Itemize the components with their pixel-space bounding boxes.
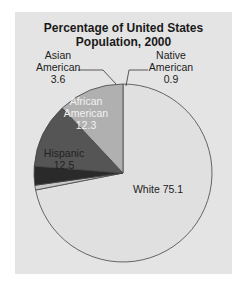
label-native-american: Native American 0.9 — [146, 49, 196, 85]
label-native-value: 0.9 — [146, 73, 196, 85]
label-native-line1: Native — [146, 49, 196, 61]
label-hispanic: Hispanic 12.5 — [41, 147, 87, 171]
label-white-text: White 75.1 — [133, 183, 183, 195]
label-african-line1: African — [63, 95, 109, 107]
label-hispanic-value: 12.5 — [41, 159, 87, 171]
label-native-line2: American — [146, 61, 196, 73]
label-african-line2: American — [63, 107, 109, 119]
label-asian-american: Asian American 3.6 — [36, 49, 80, 85]
label-african-american: African American 12.3 — [63, 95, 109, 131]
label-asian-line1: Asian — [36, 49, 80, 61]
pie-slices — [34, 84, 212, 262]
native-leader-line — [126, 70, 148, 86]
pie-chart — [0, 0, 240, 285]
asian-leader-line — [78, 70, 116, 84]
label-white: White 75.1 — [128, 183, 188, 195]
label-asian-line2: American — [36, 61, 80, 73]
label-hispanic-line1: Hispanic — [41, 147, 87, 159]
label-asian-value: 3.6 — [36, 73, 80, 85]
label-african-value: 12.3 — [63, 119, 109, 131]
